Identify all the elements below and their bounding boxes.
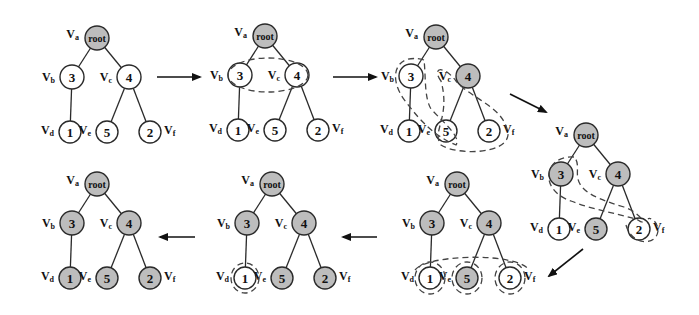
node-value: 4 bbox=[615, 167, 622, 182]
tree-node-d: 1Vd bbox=[530, 218, 570, 240]
node-value: 4 bbox=[126, 216, 133, 231]
vertex-label-e: Ve bbox=[247, 121, 260, 136]
tree-node-b: 3Vb bbox=[42, 65, 84, 89]
tree-process-diagram: rootVa3Vb4Vc1Vd5Ve2VfrootVa3Vb4Vc1Vd5Ve2… bbox=[0, 0, 699, 315]
node-value: 1 bbox=[427, 271, 434, 286]
tree-node-d: 1Vd bbox=[41, 267, 81, 289]
tree-node-root: rootVa bbox=[234, 24, 277, 48]
vertex-label-b: Vb bbox=[531, 167, 545, 182]
vertex-label-d: Vd bbox=[209, 121, 223, 136]
tree-stage-4: rootVa3Vb4Vc1Vd5Ve2Vf bbox=[530, 123, 665, 242]
tree-node-root: rootVa bbox=[405, 25, 448, 49]
tree-node-c: 4Vc bbox=[460, 211, 501, 235]
vertex-label-a: Va bbox=[426, 173, 439, 188]
vertex-label-d: Vd bbox=[380, 122, 394, 137]
vertex-label-d: Vd bbox=[41, 123, 55, 138]
vertex-label-e: Ve bbox=[254, 269, 267, 284]
tree-node-root: rootVa bbox=[555, 123, 598, 147]
tree-node-f: 2Vf bbox=[499, 267, 536, 289]
node-value: 3 bbox=[558, 167, 565, 182]
vertex-label-b: Vb bbox=[42, 70, 56, 85]
tree-node-d: 1Vd bbox=[380, 120, 420, 142]
vertex-label-f: Vf bbox=[164, 269, 176, 284]
node-value: 2 bbox=[147, 125, 154, 140]
vertex-label-c: Vc bbox=[100, 70, 113, 85]
tree-stage-2: rootVa3Vb4Vc1Vd5Ve2Vf bbox=[209, 24, 344, 141]
node-value: root bbox=[448, 179, 466, 190]
tree-node-f: 2Vf bbox=[139, 121, 176, 143]
vertex-label-e: Ve bbox=[568, 220, 581, 235]
tree-node-b: 3Vb bbox=[402, 211, 444, 235]
tree-node-b: 3Vb bbox=[210, 63, 252, 87]
flow-arrows bbox=[157, 77, 583, 276]
node-value: 2 bbox=[636, 222, 643, 237]
tree-node-d: 1Vd bbox=[401, 267, 441, 289]
tree-node-d: 1Vd bbox=[41, 121, 81, 143]
node-value: 4 bbox=[301, 216, 308, 231]
vertex-label-a: Va bbox=[555, 124, 568, 139]
node-value: 5 bbox=[464, 271, 471, 286]
vertex-label-d: Vd bbox=[530, 220, 544, 235]
vertex-label-a: Va bbox=[405, 26, 418, 41]
vertex-label-a: Va bbox=[241, 173, 254, 188]
tree-stage-7: rootVa3Vb4Vc1Vd5Ve2Vf bbox=[41, 172, 176, 289]
node-value: 5 bbox=[443, 124, 450, 139]
tree-stage-6: rootVa3Vb4Vc1Vd5Ve2Vf bbox=[216, 172, 351, 293]
vertex-label-c: Vc bbox=[275, 216, 288, 231]
vertex-label-a: Va bbox=[234, 25, 247, 40]
node-value: 3 bbox=[408, 69, 415, 84]
tree-node-c: 4Vc bbox=[100, 65, 141, 89]
tree-node-root: rootVa bbox=[66, 172, 109, 196]
node-value: 1 bbox=[556, 222, 563, 237]
tree-node-d: 1Vd bbox=[209, 119, 249, 141]
node-value: 3 bbox=[69, 216, 76, 231]
node-value: root bbox=[88, 179, 106, 190]
node-value: root bbox=[577, 130, 595, 141]
vertex-label-c: Vc bbox=[100, 216, 113, 231]
node-value: 5 bbox=[104, 271, 111, 286]
node-value: 4 bbox=[126, 70, 133, 85]
node-value: root bbox=[427, 32, 445, 43]
vertex-label-b: Vb bbox=[402, 216, 416, 231]
vertex-label-d: Vd bbox=[216, 269, 230, 284]
node-value: 4 bbox=[486, 216, 493, 231]
tree-stage-5: rootVa3Vb4Vc1Vd5Ve2Vf bbox=[401, 172, 536, 294]
tree-stage-3: rootVa3Vb4Vc1Vd5Ve2Vf bbox=[380, 25, 515, 152]
node-value: 5 bbox=[593, 222, 600, 237]
vertex-label-a: Va bbox=[66, 27, 79, 42]
tree-node-b: 3Vb bbox=[42, 211, 84, 235]
vertex-label-f: Vf bbox=[339, 269, 351, 284]
tree-stage-1: rootVa3Vb4Vc1Vd5Ve2Vf bbox=[41, 26, 176, 143]
vertex-label-f: Vf bbox=[503, 122, 515, 137]
tree-node-e: 5Ve bbox=[247, 119, 286, 141]
tree-node-c: 4Vc bbox=[439, 64, 480, 88]
tree-node-e: 5Ve bbox=[568, 218, 607, 240]
node-value: 4 bbox=[465, 69, 472, 84]
trees-container: rootVa3Vb4Vc1Vd5Ve2VfrootVa3Vb4Vc1Vd5Ve2… bbox=[41, 24, 665, 294]
tree-node-c: 4Vc bbox=[100, 211, 141, 235]
node-value: 1 bbox=[67, 271, 74, 286]
node-value: root bbox=[256, 31, 274, 42]
vertex-label-c: Vc bbox=[589, 167, 602, 182]
arrow-stage4-to-stage5 bbox=[549, 249, 583, 276]
node-value: 2 bbox=[486, 124, 493, 139]
node-value: 3 bbox=[244, 216, 251, 231]
vertex-label-f: Vf bbox=[164, 123, 176, 138]
node-value: 1 bbox=[406, 124, 413, 139]
node-value: 1 bbox=[67, 125, 74, 140]
vertex-label-e: Ve bbox=[79, 269, 92, 284]
vertex-label-b: Vb bbox=[217, 216, 231, 231]
vertex-label-b: Vb bbox=[381, 69, 395, 84]
node-value: 3 bbox=[237, 68, 244, 83]
node-value: 1 bbox=[235, 123, 242, 138]
vertex-label-e: Ve bbox=[418, 122, 431, 137]
node-value: 4 bbox=[294, 68, 301, 83]
vertex-label-b: Vb bbox=[210, 68, 224, 83]
node-value: 2 bbox=[315, 123, 322, 138]
tree-node-b: 3Vb bbox=[217, 211, 259, 235]
node-value: 2 bbox=[507, 271, 514, 286]
vertex-label-c: Vc bbox=[268, 68, 281, 83]
tree-node-e: 5Ve bbox=[79, 121, 118, 143]
tree-node-c: 4Vc bbox=[275, 211, 316, 235]
node-value: 2 bbox=[322, 271, 329, 286]
